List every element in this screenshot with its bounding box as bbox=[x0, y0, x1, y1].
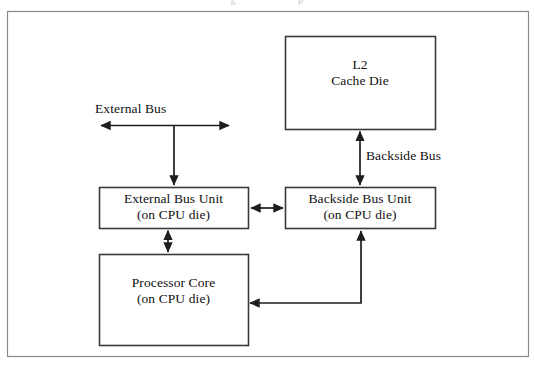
diagram-canvas: g p L2 Ca bbox=[0, 0, 534, 367]
label-backside-bus-unit: Backside Bus Unit (on CPU die) bbox=[285, 191, 435, 224]
diagram-graphics bbox=[0, 0, 534, 367]
label-backside-bus: Backside Bus bbox=[366, 148, 441, 164]
label-external-bus-unit: External Bus Unit (on CPU die) bbox=[99, 191, 248, 224]
connector-core-to-bbu bbox=[250, 231, 361, 303]
label-processor-core: Processor Core (on CPU die) bbox=[99, 275, 248, 308]
diagram-frame bbox=[8, 12, 529, 357]
label-l2-cache-die: L2 Cache Die bbox=[285, 57, 435, 90]
label-external-bus: External Bus bbox=[95, 101, 166, 117]
